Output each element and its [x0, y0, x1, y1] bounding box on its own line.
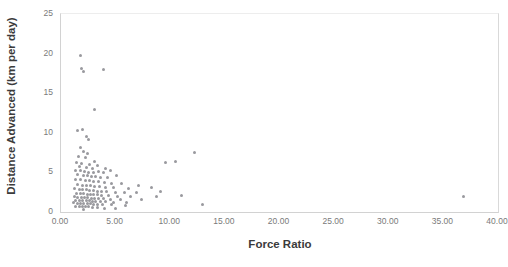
x-tick-label: 20.00 — [268, 216, 289, 226]
data-point — [84, 179, 87, 182]
data-point — [77, 155, 80, 158]
data-point — [84, 156, 87, 159]
data-point — [92, 193, 95, 196]
data-point — [74, 205, 77, 208]
data-point — [112, 186, 115, 189]
data-point — [174, 160, 177, 163]
y-tick-label: 10 — [12, 127, 58, 137]
data-point — [75, 192, 78, 195]
data-point — [87, 205, 90, 208]
data-point — [96, 193, 99, 196]
data-point — [87, 138, 90, 141]
data-point — [124, 204, 127, 207]
data-point — [164, 161, 167, 164]
data-point — [73, 195, 76, 198]
data-point — [99, 176, 102, 179]
data-point — [76, 183, 79, 186]
x-tick-label: 15.00 — [213, 216, 234, 226]
data-point — [129, 195, 132, 198]
data-point — [137, 184, 140, 187]
data-point — [90, 175, 93, 178]
data-point — [74, 178, 77, 181]
data-point-layer — [61, 14, 498, 212]
data-point — [88, 179, 91, 182]
data-point — [79, 169, 82, 172]
data-point — [123, 191, 126, 194]
data-point — [110, 203, 113, 206]
data-point — [74, 169, 77, 172]
data-point — [93, 160, 96, 163]
data-point — [100, 190, 103, 193]
data-point — [102, 68, 105, 71]
data-point — [76, 173, 79, 176]
data-point — [96, 206, 99, 209]
data-point — [81, 184, 84, 187]
data-point — [159, 190, 162, 193]
data-point — [97, 180, 100, 183]
data-point — [87, 171, 90, 174]
data-point — [110, 182, 113, 185]
data-point — [76, 129, 79, 132]
data-point — [94, 175, 97, 178]
data-point — [462, 195, 465, 198]
scatter-chart-figure: Distance Advanced (km per day) 051015202… — [0, 0, 508, 267]
data-point — [104, 186, 107, 189]
data-point — [193, 151, 196, 154]
data-point — [97, 170, 100, 173]
data-point — [91, 206, 94, 209]
y-axis-tick-labels: 0510152025 — [0, 13, 58, 211]
data-point — [120, 182, 123, 185]
data-point — [109, 198, 112, 201]
data-point — [119, 198, 122, 201]
data-point — [114, 191, 117, 194]
data-point — [86, 174, 89, 177]
x-tick-label: 35.00 — [432, 216, 453, 226]
data-point — [82, 150, 85, 153]
data-point — [79, 54, 82, 57]
data-point — [79, 146, 82, 149]
data-point — [127, 187, 130, 190]
data-point — [81, 188, 84, 191]
data-point — [150, 186, 153, 189]
data-point — [73, 187, 76, 190]
y-tick-label: 5 — [12, 166, 58, 176]
data-point — [88, 189, 91, 192]
x-tick-label: 40.00 — [486, 216, 507, 226]
data-point — [86, 152, 89, 155]
data-point — [106, 176, 109, 179]
x-tick-label: 25.00 — [322, 216, 343, 226]
data-point — [88, 163, 91, 166]
data-point — [72, 201, 75, 204]
data-point — [103, 181, 106, 184]
x-tick-label: 5.00 — [106, 216, 123, 226]
x-tick-label: 30.00 — [377, 216, 398, 226]
data-point — [79, 178, 82, 181]
data-point — [96, 164, 99, 167]
data-point — [112, 201, 115, 204]
data-point — [201, 203, 204, 206]
data-point — [91, 167, 94, 170]
data-point — [93, 108, 96, 111]
y-tick-label: 15 — [12, 87, 58, 97]
data-point — [75, 161, 78, 164]
data-point — [82, 192, 85, 195]
data-point — [96, 190, 99, 193]
y-tick-label: 25 — [12, 8, 58, 18]
data-point — [85, 166, 88, 169]
data-point — [82, 70, 85, 73]
data-point — [78, 165, 81, 168]
data-point — [180, 194, 183, 197]
data-point — [93, 185, 96, 188]
data-point — [107, 194, 110, 197]
data-point — [92, 189, 95, 192]
data-point — [103, 207, 106, 210]
x-tick-label: 0.00 — [52, 216, 69, 226]
data-point — [104, 200, 107, 203]
data-point — [82, 208, 85, 211]
data-point — [92, 171, 95, 174]
x-tick-label: 10.00 — [159, 216, 180, 226]
data-point — [92, 180, 95, 183]
data-point — [98, 185, 101, 188]
y-tick-label: 0 — [12, 206, 58, 216]
data-point — [135, 191, 138, 194]
